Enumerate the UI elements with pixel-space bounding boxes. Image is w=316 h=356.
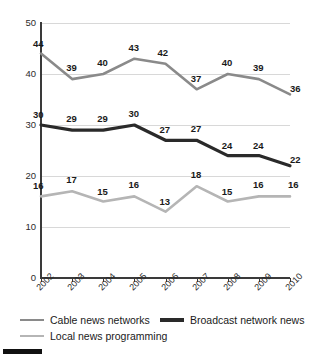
legend-label-local: Local news programming (50, 330, 167, 342)
data-point-label: 36 (290, 84, 301, 94)
data-point-label: 16 (288, 180, 299, 190)
legend-label-cable: Cable news networks (50, 314, 150, 326)
data-point-label: 24 (222, 141, 233, 151)
series-line (41, 54, 290, 95)
line-chart: 01020304050 2002200320042005200620072008… (0, 0, 316, 356)
data-point-label: 40 (222, 58, 233, 68)
chart-legend: Cable news networks Broadcast network ne… (0, 312, 316, 344)
data-point-label: 15 (222, 187, 233, 197)
data-point-label: 16 (128, 180, 139, 190)
legend-label-broadcast: Broadcast network news (190, 314, 304, 326)
data-point-label: 18 (191, 170, 202, 180)
legend-swatch-broadcast-icon (160, 318, 184, 322)
data-point-label: 29 (97, 114, 108, 124)
data-point-label: 16 (33, 181, 44, 191)
data-point-label: 30 (33, 110, 44, 120)
data-point-label: 44 (33, 39, 44, 49)
data-point-label: 13 (160, 197, 171, 207)
legend-item-cable-news-networks[interactable]: Cable news networks (20, 312, 150, 328)
data-point-label: 39 (253, 63, 264, 73)
data-point-label: 39 (66, 63, 77, 73)
data-point-label: 30 (128, 109, 139, 119)
footer-bar (3, 349, 42, 354)
data-point-label: 16 (253, 180, 264, 190)
data-point-label: 42 (158, 48, 169, 58)
data-point-label: 15 (97, 187, 108, 197)
legend-item-broadcast-network-news[interactable]: Broadcast network news (160, 312, 304, 328)
data-point-label: 27 (160, 125, 171, 135)
data-point-label: 40 (97, 58, 108, 68)
data-point-label: 43 (128, 43, 139, 53)
legend-item-local-news-programming[interactable]: Local news programming (20, 328, 167, 344)
data-point-label: 29 (66, 114, 77, 124)
data-point-label: 17 (66, 175, 77, 185)
data-point-label: 27 (191, 124, 202, 134)
legend-swatch-cable-icon (20, 319, 44, 322)
legend-swatch-local-icon (20, 335, 44, 338)
data-point-label: 22 (290, 155, 301, 165)
data-point-label: 24 (253, 141, 264, 151)
data-point-label: 37 (191, 74, 202, 84)
